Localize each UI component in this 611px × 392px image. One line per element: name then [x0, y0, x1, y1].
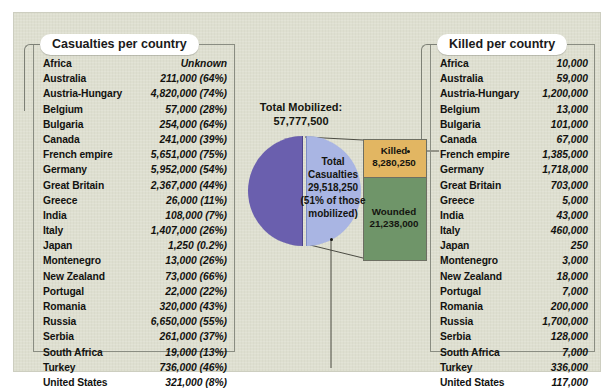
pie-connector-dot — [330, 238, 333, 241]
row-value: 1,718,000 — [542, 164, 588, 175]
table-row: Montenegro3,000 — [440, 255, 588, 270]
table-row: AfricaUnknown — [43, 58, 227, 73]
row-value: 261,000 (37%) — [159, 331, 227, 342]
row-country: Australia — [43, 73, 86, 84]
table-row: Belgium13,000 — [440, 104, 588, 119]
row-value: 254,000 (64%) — [159, 119, 227, 130]
row-country: United States — [43, 377, 108, 388]
table-row: Russia6,650,000 (55%) — [43, 316, 227, 331]
row-value: 59,000 — [557, 73, 589, 84]
row-value: 1,200,000 — [542, 88, 588, 99]
table-row: India108,000 (7%) — [43, 210, 227, 225]
row-country: Japan — [440, 240, 469, 251]
row-value: 18,000 — [557, 271, 589, 282]
row-value: 460,000 — [551, 225, 588, 236]
table-row: Japan1,250 (0.2%) — [43, 240, 227, 255]
killed-connector-dot — [407, 150, 410, 153]
row-value: 108,000 (7%) — [165, 210, 227, 221]
row-country: South Africa — [440, 347, 500, 358]
table-row: Serbia128,000 — [440, 331, 588, 346]
table-row: Romania200,000 — [440, 301, 588, 316]
table-row: Bulgaria101,000 — [440, 119, 588, 134]
table-row: South Africa7,000 — [440, 347, 588, 362]
table-row: Germany5,952,000 (54%) — [43, 164, 227, 179]
row-country: Russia — [440, 316, 473, 327]
row-country: Australia — [440, 73, 483, 84]
row-country: Austria-Hungary — [440, 88, 519, 99]
row-country: Montenegro — [440, 255, 498, 266]
killed-panel-title: Killed per country — [437, 34, 567, 55]
table-row: New Zealand73,000 (66%) — [43, 271, 227, 286]
table-row: Greece26,000 (11%) — [43, 195, 227, 210]
table-row: Great Britain2,367,000 (44%) — [43, 180, 227, 195]
casualties-panel-title: Casualties per country — [40, 34, 199, 55]
row-value: 67,000 — [557, 134, 589, 145]
casualties-per-country-list: AfricaUnknownAustralia211,000 (64%)Austr… — [43, 58, 227, 392]
row-country: Serbia — [43, 331, 74, 342]
table-row: Serbia261,000 (37%) — [43, 331, 227, 346]
total-mobilized-label: Total Mobilized: 57,777,500 — [238, 100, 364, 128]
row-country: Portugal — [43, 286, 84, 297]
table-row: United States117,000 — [440, 377, 588, 392]
row-value: 6,650,000 (55%) — [151, 316, 227, 327]
row-country: Great Britain — [43, 180, 104, 191]
total-mobilized-title: Total Mobilized: — [238, 100, 364, 114]
row-value: 320,000 (43%) — [159, 301, 227, 312]
table-row: Portugal7,000 — [440, 286, 588, 301]
total-mobilized-value: 57,777,500 — [238, 114, 364, 128]
table-row: Romania320,000 (43%) — [43, 301, 227, 316]
row-country: French empire — [440, 149, 510, 160]
row-country: Germany — [43, 164, 87, 175]
row-value: 3,000 — [562, 255, 588, 266]
table-row: Montenegro13,000 (26%) — [43, 255, 227, 270]
table-row: Belgium57,000 (28%) — [43, 104, 227, 119]
row-country: Montenegro — [43, 255, 101, 266]
table-row: United States321,000 (8%) — [43, 377, 227, 392]
row-country: Turkey — [43, 362, 75, 373]
row-country: Belgium — [440, 104, 480, 115]
row-country: Bulgaria — [440, 119, 480, 130]
row-value: Unknown — [181, 58, 227, 69]
row-value: 73,000 (66%) — [165, 271, 227, 282]
table-row: India43,000 — [440, 210, 588, 225]
row-value: 703,000 — [551, 180, 588, 191]
row-country: Africa — [43, 58, 72, 69]
table-row: Austria-Hungary4,820,000 (74%) — [43, 88, 227, 103]
row-value: 1,700,000 — [542, 316, 588, 327]
table-row: Canada241,000 (39%) — [43, 134, 227, 149]
row-value: 321,000 (8%) — [165, 377, 227, 388]
row-value: 1,407,000 (26%) — [151, 225, 227, 236]
row-country: French empire — [43, 149, 113, 160]
row-country: Serbia — [440, 331, 471, 342]
row-value: 19,000 (13%) — [165, 347, 227, 358]
table-row: Italy460,000 — [440, 225, 588, 240]
row-country: Greece — [440, 195, 474, 206]
row-country: India — [440, 210, 464, 221]
table-row: Great Britain703,000 — [440, 180, 588, 195]
row-value: 200,000 — [551, 301, 588, 312]
pie-casualties-label: Total Casualties 29,518,250 (51% of thos… — [300, 155, 366, 220]
row-country: Portugal — [440, 286, 481, 297]
killed-per-country-list: Africa10,000Australia59,000Austria-Hunga… — [440, 58, 588, 392]
row-country: Great Britain — [440, 180, 501, 191]
row-country: New Zealand — [43, 271, 105, 282]
table-row: Greece5,000 — [440, 195, 588, 210]
row-country: New Zealand — [440, 271, 502, 282]
table-row: Africa10,000 — [440, 58, 588, 73]
row-value: 241,000 (39%) — [159, 134, 227, 145]
table-row: Italy1,407,000 (26%) — [43, 225, 227, 240]
row-country: Africa — [440, 58, 469, 69]
table-row: Turkey736,000 (46%) — [43, 362, 227, 377]
row-country: Japan — [43, 240, 72, 251]
row-value: 117,000 — [552, 377, 588, 388]
table-row: French empire1,385,000 — [440, 149, 588, 164]
row-value: 736,000 (46%) — [159, 362, 227, 373]
table-row: Japan250 — [440, 240, 588, 255]
row-country: United States — [440, 377, 505, 388]
table-row: Turkey336,000 — [440, 362, 588, 377]
row-country: India — [43, 210, 67, 221]
row-country: Canada — [440, 134, 477, 145]
table-row: Australia211,000 (64%) — [43, 73, 227, 88]
table-row: Australia59,000 — [440, 73, 588, 88]
wounded-value: 21,238,000 — [363, 218, 425, 230]
